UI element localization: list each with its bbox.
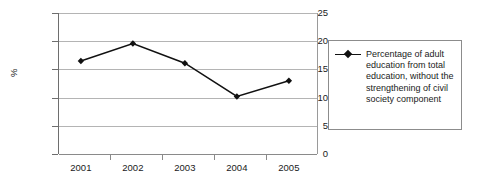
data-point-marker xyxy=(286,77,292,83)
data-point-marker xyxy=(130,40,136,46)
series-line-percentage-adult-education xyxy=(0,0,328,186)
chart-legend: Percentage of adult education from total… xyxy=(328,40,462,130)
legend-line-diamond-icon xyxy=(335,49,361,60)
legend-entry: Percentage of adult education from total… xyxy=(335,49,460,105)
chart-plot-region: % 0510152025 20012002200320042005 xyxy=(0,0,328,186)
chart-figure: % 0510152025 20012002200320042005 Percen… xyxy=(0,0,480,186)
data-point-marker xyxy=(78,58,84,64)
legend-entry-label: Percentage of adult education from total… xyxy=(366,49,460,105)
